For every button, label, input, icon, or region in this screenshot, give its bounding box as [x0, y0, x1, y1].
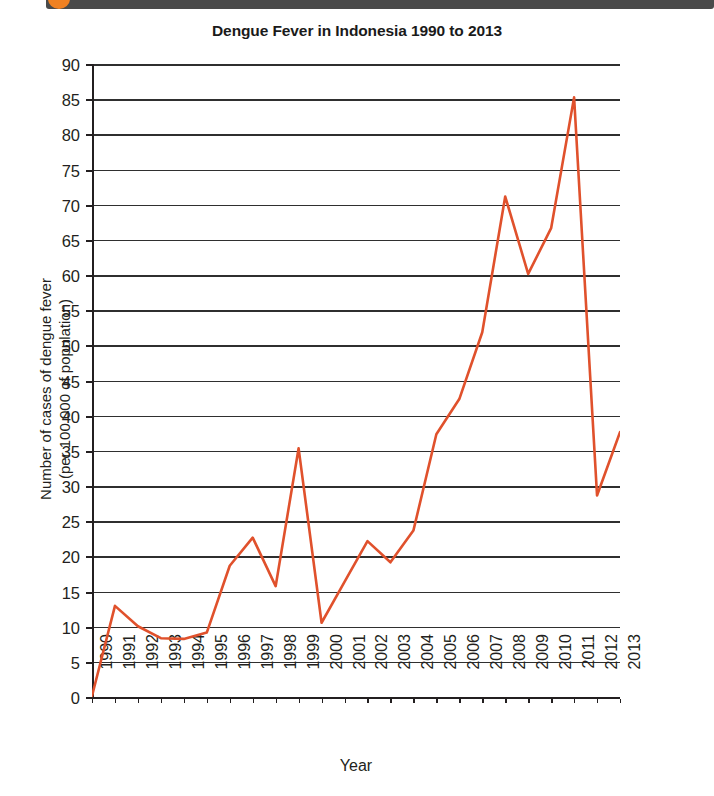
x-tick-mark	[482, 699, 483, 703]
y-tick-label: 15	[40, 583, 80, 602]
y-tick-label: 5	[40, 653, 80, 672]
y-tick-label: 85	[40, 91, 80, 110]
x-tick-mark	[574, 699, 575, 703]
y-tick-label: 45	[40, 372, 80, 391]
x-axis-title: Year	[92, 757, 620, 775]
y-tick-label: 80	[40, 126, 80, 145]
y-tick-label: 65	[40, 231, 80, 250]
x-tick-mark	[92, 699, 93, 703]
y-tick-label: 25	[40, 513, 80, 532]
x-tick-mark	[528, 699, 529, 703]
x-tick-mark	[138, 699, 139, 703]
x-tick-mark	[276, 699, 277, 703]
x-tick-mark	[230, 699, 231, 703]
x-tick-mark	[299, 699, 300, 703]
y-tick-label: 70	[40, 196, 80, 215]
y-tick-label: 55	[40, 302, 80, 321]
y-tick-label: 35	[40, 442, 80, 461]
x-tick-mark	[459, 699, 460, 703]
x-tick-mark	[620, 699, 621, 703]
x-tick-label: 2013	[626, 634, 644, 704]
page-header-bar	[46, 0, 714, 9]
dengue-line-series	[92, 65, 620, 698]
x-tick-mark	[253, 699, 254, 703]
y-tick-label: 40	[40, 407, 80, 426]
series-polyline	[92, 97, 620, 696]
x-tick-mark	[367, 699, 368, 703]
x-tick-mark	[322, 699, 323, 703]
x-tick-mark	[161, 699, 162, 703]
y-tick-label: 20	[40, 548, 80, 567]
x-tick-mark	[207, 699, 208, 703]
x-tick-mark	[115, 699, 116, 703]
x-tick-mark	[345, 699, 346, 703]
y-tick-label: 90	[40, 56, 80, 75]
x-tick-mark	[597, 699, 598, 703]
plot-area	[92, 65, 620, 698]
y-tick-label: 30	[40, 478, 80, 497]
chart-title: Dengue Fever in Indonesia 1990 to 2013	[0, 22, 714, 40]
x-tick-mark	[436, 699, 437, 703]
y-tick-label: 0	[40, 689, 80, 708]
y-tick-label: 75	[40, 161, 80, 180]
x-tick-mark	[505, 699, 506, 703]
y-tick-label: 50	[40, 337, 80, 356]
y-tick-label: 10	[40, 618, 80, 637]
x-tick-mark	[390, 699, 391, 703]
x-tick-mark	[413, 699, 414, 703]
x-tick-mark	[551, 699, 552, 703]
x-tick-mark	[184, 699, 185, 703]
y-tick-label: 60	[40, 267, 80, 286]
